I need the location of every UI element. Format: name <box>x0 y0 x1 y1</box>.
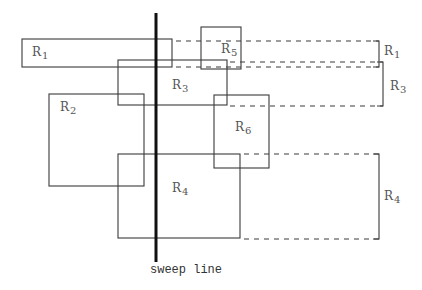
label-r6-base: R <box>235 120 244 134</box>
label-r2-sub: 2 <box>70 105 76 116</box>
label-r4: R4 <box>172 182 188 194</box>
projection-label-r3-base: R <box>390 79 399 93</box>
projection-label-r4: R4 <box>384 190 400 202</box>
label-r1-sub: 1 <box>42 50 48 61</box>
bracket-r4 <box>373 154 379 239</box>
label-r6-sub: 6 <box>245 125 251 136</box>
projection-label-r1-sub: 1 <box>394 49 400 60</box>
projection-label-r4-base: R <box>384 189 393 203</box>
label-r5-base: R <box>221 42 230 56</box>
label-r2: R2 <box>60 101 76 113</box>
diagram-svg <box>0 0 422 290</box>
label-r3: R3 <box>172 79 188 91</box>
label-r5-sub: 5 <box>231 47 237 58</box>
rect-r4 <box>118 154 240 238</box>
label-r2-base: R <box>60 100 69 114</box>
projection-label-r3-sub: 3 <box>400 84 406 95</box>
sweep-line-diagram: R1 R2 R3 R4 R5 R6 R1 R3 R4 sweep line <box>0 0 422 290</box>
sweep-line-label: sweep line <box>150 263 222 277</box>
projection-label-r4-sub: 4 <box>394 194 400 205</box>
label-r1-base: R <box>32 45 41 59</box>
label-r3-sub: 3 <box>182 83 188 94</box>
label-r3-base: R <box>172 78 181 92</box>
label-r5: R5 <box>221 43 237 55</box>
projection-label-r1-base: R <box>384 44 393 58</box>
label-r4-base: R <box>172 181 181 195</box>
projection-label-r1: R1 <box>384 45 400 57</box>
label-r6: R6 <box>235 121 251 133</box>
bracket-r3 <box>377 62 383 106</box>
projection-label-r3: R3 <box>390 80 406 92</box>
label-r1: R1 <box>32 46 48 58</box>
label-r4-sub: 4 <box>182 186 188 197</box>
bracket-r1 <box>373 41 379 67</box>
